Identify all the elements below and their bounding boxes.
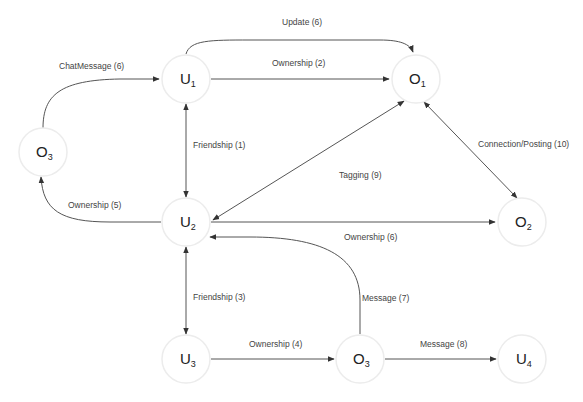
nodes: U1 O1 O3 U2 O2 U3 O3 U4	[19, 55, 546, 383]
node-o3-left: O3	[19, 128, 67, 176]
node-letter: U	[180, 350, 191, 367]
node-subscript: 1	[421, 79, 426, 89]
node-o1: O1	[392, 55, 440, 103]
edge-label-friendship-1: Friendship (1)	[193, 140, 246, 150]
edge-update	[186, 40, 413, 54]
node-letter: U	[180, 213, 191, 230]
edge-tagging	[213, 101, 404, 220]
edge-label-ownership-2: Ownership (2)	[272, 58, 326, 68]
node-letter: U	[516, 350, 527, 367]
edge-connection	[424, 102, 517, 198]
node-letter: O	[353, 350, 365, 367]
node-subscript: 2	[191, 222, 196, 232]
edge-label-message-8: Message (8)	[420, 339, 467, 349]
edge-labels: Update (6) Ownership (2) ChatMessage (6)…	[59, 17, 569, 349]
node-subscript: 3	[48, 152, 53, 162]
edge-label-tagging: Tagging (9)	[339, 170, 382, 180]
edge-label-ownership-4: Ownership (4)	[249, 339, 303, 349]
node-letter: O	[515, 213, 527, 230]
node-u4: U4	[498, 335, 546, 383]
node-subscript: 3	[191, 359, 196, 369]
edge-label-connection: Connection/Posting (10)	[478, 139, 569, 149]
node-subscript: 1	[191, 79, 196, 89]
social-graph-diagram: Update (6) Ownership (2) ChatMessage (6)…	[0, 0, 583, 402]
node-u3: U3	[162, 335, 210, 383]
edge-message-7	[210, 237, 360, 334]
edge-label-message-7: Message (7)	[362, 293, 409, 303]
node-u1: U1	[162, 55, 210, 103]
edge-label-friendship-3: Friendship (3)	[193, 292, 246, 302]
node-o3-bottom: O3	[336, 335, 384, 383]
edge-label-ownership-5: Ownership (5)	[68, 200, 122, 210]
edge-label-chatmessage: ChatMessage (6)	[59, 61, 124, 71]
node-letter: O	[409, 70, 421, 87]
node-u2: U2	[162, 198, 210, 246]
node-letter: U	[180, 70, 191, 87]
node-letter: O	[36, 143, 48, 160]
edge-chatmessage	[43, 79, 159, 128]
node-subscript: 4	[527, 359, 532, 369]
edge-label-update: Update (6)	[282, 17, 322, 27]
node-subscript: 3	[365, 359, 370, 369]
node-subscript: 2	[527, 222, 532, 232]
edge-label-ownership-6: Ownership (6)	[344, 232, 398, 242]
node-o2: O2	[498, 198, 546, 246]
